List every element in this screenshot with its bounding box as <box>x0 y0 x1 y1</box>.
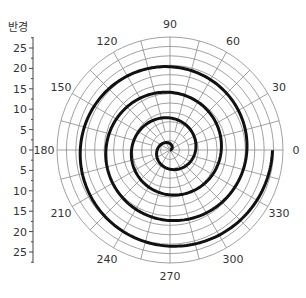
angle-label-180: 180 <box>34 144 55 157</box>
radial-tick-label: 5 <box>20 124 27 137</box>
angle-label-210: 210 <box>50 207 71 220</box>
radial-tick-label: 25 <box>13 246 27 259</box>
angle-label-150: 150 <box>50 81 71 94</box>
radial-tick-label: 20 <box>13 226 27 239</box>
radial-tick-label: 15 <box>13 205 27 218</box>
radial-tick-label: 0 <box>20 144 27 157</box>
angle-label-270: 270 <box>160 270 181 283</box>
grid-spoke <box>170 94 268 151</box>
grid-spoke <box>188 155 279 179</box>
angle-label-120: 120 <box>97 35 118 48</box>
radial-axis-title: 반경 <box>8 21 28 34</box>
angle-label-330: 330 <box>269 207 290 220</box>
angle-label-30: 30 <box>272 81 286 94</box>
radial-tick-label: 20 <box>13 62 27 75</box>
angle-labels: 0306090120150180210240270300330 <box>34 18 300 283</box>
angle-label-0: 0 <box>293 144 300 157</box>
grid-spoke <box>175 41 199 132</box>
angle-label-60: 60 <box>226 35 240 48</box>
grid-spoke <box>188 121 279 145</box>
angle-label-300: 300 <box>223 253 244 266</box>
radial-tick-label: 10 <box>13 185 27 198</box>
radial-tick-label: 25 <box>13 42 27 55</box>
polar-chart: 0306090120150180210240270300330 반경 05510… <box>0 0 306 298</box>
angle-label-90: 90 <box>163 18 177 31</box>
grid-spoke <box>90 70 157 137</box>
radial-tick-label: 5 <box>20 164 27 177</box>
polar-plot-area: 0306090120150180210240270300330 반경 05510… <box>0 0 306 298</box>
radial-axis: 반경 0551010151520202525 <box>8 21 33 263</box>
angle-label-240: 240 <box>97 253 118 266</box>
radial-tick-label: 10 <box>13 103 27 116</box>
radial-tick-label: 15 <box>13 83 27 96</box>
